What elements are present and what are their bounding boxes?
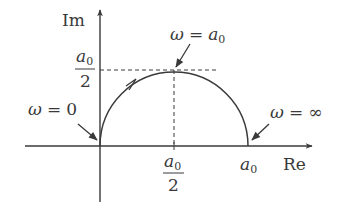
re-full-label: a0 bbox=[240, 154, 257, 176]
annotation-omega-a0: ω=a0 bbox=[170, 24, 225, 67]
pointer-arrow-icon bbox=[252, 124, 269, 140]
svg-text:a0: a0 bbox=[164, 151, 181, 173]
imag-axis-label: Im bbox=[62, 10, 85, 30]
real-axis-label: Re bbox=[283, 154, 306, 174]
pointer-arrow-icon bbox=[78, 124, 97, 140]
svg-text:2: 2 bbox=[80, 71, 91, 91]
svg-text:ω=a0: ω=a0 bbox=[170, 24, 225, 46]
svg-text:ω=∞: ω=∞ bbox=[270, 102, 322, 122]
annotation-omega-infinity: ω=∞ bbox=[252, 102, 322, 140]
re-half-fraction: a0 2 bbox=[163, 151, 184, 195]
im-half-fraction: a0 2 bbox=[75, 46, 95, 91]
nyquist-diagram: Im Re a0 2 a0 2 a0 ω=0 ω=a0 ω=∞ bbox=[0, 0, 347, 209]
annotation-omega-zero: ω=0 bbox=[28, 99, 97, 140]
svg-text:a0: a0 bbox=[76, 46, 93, 68]
svg-text:2: 2 bbox=[168, 175, 179, 195]
svg-text:ω=0: ω=0 bbox=[28, 99, 77, 119]
pointer-arrow-icon bbox=[176, 44, 190, 67]
